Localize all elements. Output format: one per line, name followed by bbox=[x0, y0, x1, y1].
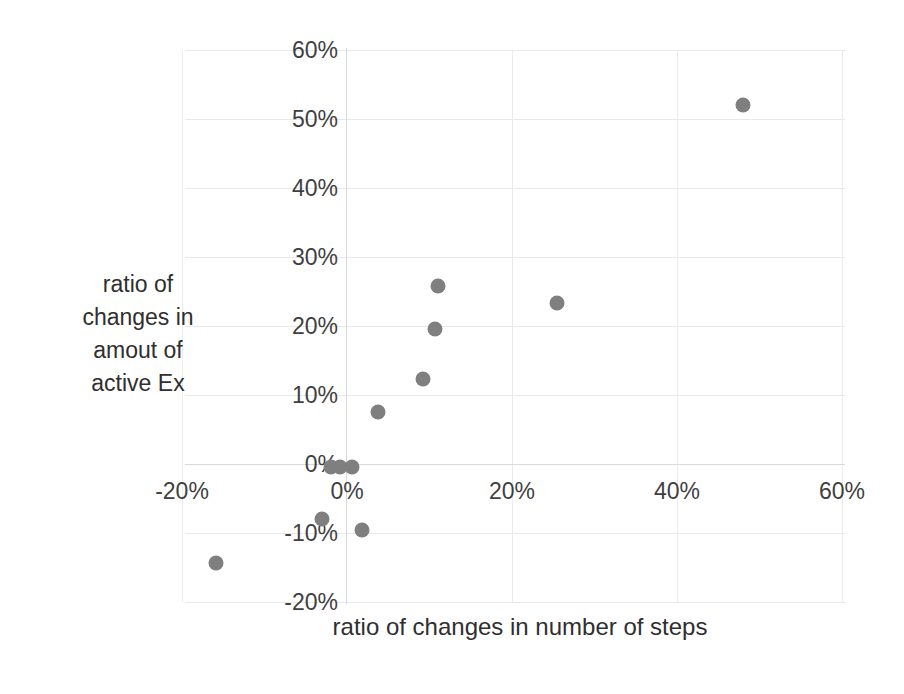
x-tick-20: 20% bbox=[452, 478, 572, 504]
scatter-point bbox=[428, 322, 443, 337]
y-axis-line bbox=[346, 48, 347, 604]
scatter-point bbox=[371, 405, 386, 420]
x-tick-neg20: -20% bbox=[122, 478, 242, 504]
x-axis-title: ratio of changes in number of steps bbox=[200, 612, 840, 642]
gridline-x-40 bbox=[677, 50, 678, 602]
chart-page: 60% 50% 40% 30% 20% 10% 0% -10% -20% -20… bbox=[0, 0, 904, 694]
gridline-x-60 bbox=[842, 50, 843, 602]
gridline-x-20 bbox=[512, 50, 513, 602]
scatter-plot-area: 60% 50% 40% 30% 20% 10% 0% -10% -20% -20… bbox=[0, 0, 904, 694]
scatter-point bbox=[736, 98, 751, 113]
y-axis-title-line-1: ratio of bbox=[38, 268, 238, 301]
scatter-point bbox=[430, 278, 445, 293]
scatter-point bbox=[354, 523, 369, 538]
y-axis-title-line-4: active Ex bbox=[38, 367, 238, 400]
x-tick-40: 40% bbox=[617, 478, 737, 504]
scatter-point bbox=[550, 296, 565, 311]
x-tick-0: 0% bbox=[287, 478, 407, 504]
y-axis-title: ratio of changes in amout of active Ex bbox=[38, 268, 238, 400]
scatter-point bbox=[315, 512, 330, 527]
x-tick-60: 60% bbox=[782, 478, 902, 504]
scatter-point bbox=[415, 372, 430, 387]
y-axis-title-line-2: changes in bbox=[38, 301, 238, 334]
y-axis-title-line-3: amout of bbox=[38, 334, 238, 367]
scatter-point bbox=[344, 459, 359, 474]
scatter-point bbox=[208, 556, 223, 571]
